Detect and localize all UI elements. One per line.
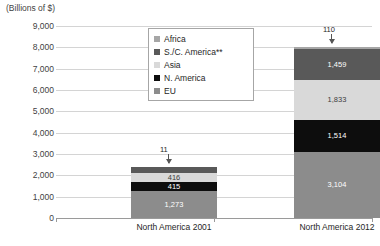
legend-swatch-eu [154, 88, 160, 94]
bar-segment-asia[interactable]: 1,833 [294, 80, 380, 119]
y-axis-tick-label: 5,000 [4, 106, 54, 116]
bar-segment-eu[interactable]: 3,104 [294, 152, 380, 218]
legend-label-africa: Africa [164, 34, 186, 44]
legend-label-sc-america: S./C. America** [164, 47, 223, 57]
bar-segment-s-c-america[interactable]: 1,459 [294, 49, 380, 80]
legend-item-sc-america[interactable]: S./C. America** [154, 45, 249, 58]
chart-legend: Africa S./C. America** Asia N. America E… [148, 28, 254, 101]
bar-segment-value: 416 [168, 174, 181, 182]
y-axis-tick-labels: 01,0002,0003,0004,0005,0006,0007,0008,00… [0, 26, 54, 218]
legend-item-asia[interactable]: Asia [154, 58, 249, 71]
y-axis-tick-label: 8,000 [4, 42, 54, 52]
callout-label-africa: 11 [160, 145, 168, 154]
y-axis-tick-label: 9,000 [4, 21, 54, 31]
legend-swatch-sc-america [154, 49, 160, 55]
bar-segment-n-america[interactable]: 415 [131, 182, 217, 191]
bar-segment-eu[interactable]: 1,273 [131, 191, 217, 218]
x-axis-label-2012: North America 2012 [277, 222, 380, 232]
y-axis-tick-label: 7,000 [4, 64, 54, 74]
stacked-bar-chart: (Billions of $) 01,0002,0003,0004,0005,0… [0, 0, 380, 246]
bar-segment-value: 415 [168, 183, 181, 191]
bar-2001[interactable]: 4164151,273 [131, 167, 217, 218]
x-axis-tick [56, 218, 57, 222]
legend-swatch-asia [154, 62, 160, 68]
legend-item-africa[interactable]: Africa [154, 32, 249, 45]
bar-segment-value: 1,459 [328, 61, 347, 69]
bar-2012[interactable]: 1,4591,8331,5143,104 [294, 47, 380, 218]
bar-segment-value: 1,833 [328, 96, 347, 104]
bar-segment-value: 3,104 [328, 181, 347, 189]
legend-label-n-america: N. America [164, 73, 206, 83]
y-axis-tick-label: 1,000 [4, 192, 54, 202]
y-axis-tick-label: 0 [4, 213, 54, 223]
y-axis-tick-label: 6,000 [4, 85, 54, 95]
legend-label-asia: Asia [164, 60, 181, 70]
callout-label-africa: 110 [323, 25, 335, 34]
y-axis-tick-label: 4,000 [4, 128, 54, 138]
x-axis-label-2001: North America 2001 [114, 222, 234, 232]
y-axis-tick-label: 2,000 [4, 170, 54, 180]
bar-segment-n-america[interactable]: 1,514 [294, 120, 380, 152]
legend-label-eu: EU [164, 86, 176, 96]
bar-segment-value: 1,514 [328, 132, 347, 140]
bar-segment-value: 1,273 [165, 201, 184, 209]
y-axis-unit-label: (Billions of $) [6, 3, 55, 13]
x-axis-tick [372, 218, 373, 222]
bar-segment-asia[interactable]: 416 [131, 173, 217, 182]
legend-swatch-africa [154, 36, 160, 42]
y-axis-tick-label: 3,000 [4, 149, 54, 159]
callout-arrow-africa [168, 154, 169, 163]
callout-arrow-africa [331, 34, 332, 43]
x-axis-tick [214, 218, 215, 222]
legend-swatch-n-america [154, 75, 160, 81]
legend-item-eu[interactable]: EU [154, 84, 249, 97]
legend-item-n-america[interactable]: N. America [154, 71, 249, 84]
